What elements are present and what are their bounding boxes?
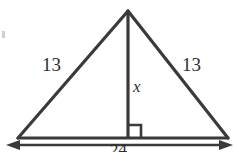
triangle-left-side <box>18 11 128 138</box>
arrow-left-icon <box>6 140 20 150</box>
triangle-diagram-svg <box>0 0 237 152</box>
triangle-right-side <box>128 11 228 138</box>
right-side-label: 13 <box>182 55 201 74</box>
right-angle-icon <box>128 125 141 138</box>
left-side-label: 13 <box>42 55 61 74</box>
geometry-figure: 13 13 x 24 <box>0 0 237 152</box>
base-length-label: 24 <box>110 141 127 152</box>
altitude-label: x <box>133 78 141 95</box>
arrow-right-icon <box>219 140 233 150</box>
